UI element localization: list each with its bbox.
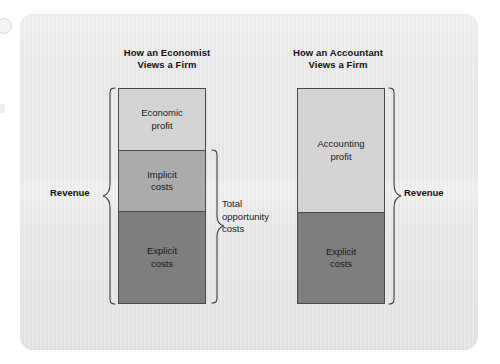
revenue-brace-right-icon bbox=[388, 86, 402, 306]
panel-texture bbox=[20, 14, 478, 350]
figure-panel bbox=[20, 14, 478, 350]
segment-economic-profit: Economic profit bbox=[119, 89, 205, 150]
segment-accounting-profit: Accounting profit bbox=[298, 89, 384, 212]
segment-explicit-costs-accountant: Explicit costs bbox=[298, 212, 384, 303]
revenue-label-left: Revenue bbox=[50, 187, 90, 198]
accountant-column-title: How an Accountant Views a Firm bbox=[268, 47, 408, 71]
segment-implicit-costs: Implicit costs bbox=[119, 150, 205, 211]
page-margin-mark-secondary-icon bbox=[0, 104, 5, 113]
accountant-bar: Accounting profit Explicit costs bbox=[297, 88, 385, 304]
economist-column-title: How an Economist Views a Firm bbox=[97, 47, 237, 71]
revenue-label-right: Revenue bbox=[404, 187, 444, 198]
revenue-brace-left-icon bbox=[102, 86, 116, 306]
total-opportunity-costs-label: Total opportunity costs bbox=[222, 198, 294, 236]
segment-explicit-costs-economist: Explicit costs bbox=[119, 211, 205, 303]
economist-bar: Economic profit Implicit costs Explicit … bbox=[118, 88, 206, 304]
page-margin-mark-icon bbox=[0, 18, 12, 34]
